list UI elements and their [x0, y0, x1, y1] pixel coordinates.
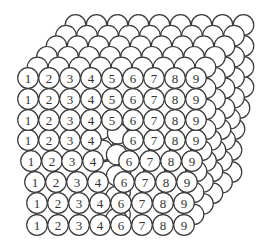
circle-label: 4	[88, 133, 95, 148]
circle-label: 2	[53, 175, 60, 190]
numbered-circle: 4	[90, 193, 111, 214]
circle-label: 3	[67, 113, 74, 128]
circle-label: 6	[130, 113, 137, 128]
circle-label: 6	[126, 154, 133, 169]
numbered-circle: 9	[186, 130, 207, 151]
numbered-circle: 4	[81, 68, 102, 89]
numbered-circle: 7	[132, 215, 153, 236]
numbered-circle: 6	[123, 68, 144, 89]
numbered-circle: 1	[18, 110, 39, 131]
numbered-circle: 1	[21, 151, 42, 172]
numbered-circle: 8	[153, 193, 174, 214]
circle-label: 6	[130, 71, 137, 86]
circle-label: 6	[121, 175, 128, 190]
circle-label: 3	[74, 175, 81, 190]
numbered-circle: 8	[165, 130, 186, 151]
numbered-circle: 9	[186, 110, 207, 131]
numbered-circle: 1	[18, 89, 39, 110]
circle-label: 6	[118, 218, 125, 233]
numbered-circle: 6	[111, 193, 132, 214]
circle-stack-diagram: 1234678912346789123467891234678912346789…	[0, 0, 270, 251]
circle-label: 7	[147, 154, 154, 169]
circle-label: 3	[76, 218, 83, 233]
numbered-circle: 1	[27, 215, 48, 236]
circle-label: 2	[55, 196, 62, 211]
numbered-circle: 8	[165, 89, 186, 110]
numbered-circle: 1	[27, 193, 48, 214]
numbered-circle: 1	[25, 172, 46, 193]
numbered-circle: 5	[102, 89, 123, 110]
circle-label: 2	[55, 218, 62, 233]
front-row-3: 123456789	[18, 110, 207, 131]
numbered-circle: 2	[39, 68, 60, 89]
circle-label: 4	[88, 113, 95, 128]
circle-label: 7	[139, 218, 146, 233]
numbered-circle: 7	[135, 172, 156, 193]
numbered-circle: 3	[69, 193, 90, 214]
circle-label: 8	[160, 218, 167, 233]
numbered-circle: 8	[165, 110, 186, 131]
circle-label: 1	[34, 218, 41, 233]
numbered-circle: 1	[18, 68, 39, 89]
circle-label: 2	[46, 133, 53, 148]
numbered-circle: 4	[81, 89, 102, 110]
circle-label: 3	[67, 133, 74, 148]
circle-label: 4	[97, 218, 104, 233]
numbered-circle: 4	[83, 151, 104, 172]
front-row-1: 123456789	[18, 68, 207, 89]
circle-label: 8	[168, 154, 175, 169]
numbered-circle: 3	[69, 215, 90, 236]
numbered-circle: 2	[42, 151, 63, 172]
numbered-circle: 1	[18, 130, 39, 151]
circle-label: 2	[46, 71, 53, 86]
numbered-circle: 6	[123, 110, 144, 131]
numbered-circle: 7	[144, 68, 165, 89]
numbered-circle: 7	[144, 110, 165, 131]
circle-label: 2	[46, 113, 53, 128]
numbered-circle: 7	[132, 193, 153, 214]
numbered-circle: 5	[102, 110, 123, 131]
numbered-circle: 5	[102, 68, 123, 89]
circle-label: 9	[189, 154, 196, 169]
circle-label: 8	[172, 113, 179, 128]
numbered-circle: 7	[144, 89, 165, 110]
circle-label: 8	[172, 71, 179, 86]
numbered-circle: 4	[81, 110, 102, 131]
numbered-circle: 2	[39, 130, 60, 151]
circle-label: 2	[46, 92, 53, 107]
circle-label: 4	[90, 154, 97, 169]
circle-label: 8	[172, 92, 179, 107]
numbered-circle: 2	[48, 215, 69, 236]
numbered-circle: 6	[123, 130, 144, 151]
numbered-circle: 2	[39, 89, 60, 110]
circle-label: 1	[25, 133, 32, 148]
circle-label: 9	[184, 175, 191, 190]
numbered-circle: 3	[60, 130, 81, 151]
circle-label: 1	[25, 71, 32, 86]
circle-label: 6	[118, 196, 125, 211]
circle-label: 7	[142, 175, 149, 190]
circle-label: 6	[130, 92, 137, 107]
circle-label: 7	[151, 133, 158, 148]
numbered-circle: 3	[67, 172, 88, 193]
numbered-circle: 9	[186, 89, 207, 110]
circle-label: 4	[95, 175, 102, 190]
circle-label: 5	[109, 92, 116, 107]
numbered-circle: 4	[81, 130, 102, 151]
numbered-circle: 9	[174, 193, 195, 214]
circle-label: 5	[109, 113, 116, 128]
numbered-circle: 2	[39, 110, 60, 131]
circle-label: 4	[97, 196, 104, 211]
numbered-circle: 6	[119, 151, 140, 172]
numbered-circle: 2	[46, 172, 67, 193]
circle-label: 9	[193, 113, 200, 128]
circle-label: 8	[163, 175, 170, 190]
numbered-circle: 9	[174, 215, 195, 236]
diagram-canvas: 1234678912346789123467891234678912346789…	[0, 0, 270, 251]
circle-label: 7	[151, 71, 158, 86]
circle-label: 4	[88, 92, 95, 107]
circle-label: 2	[49, 154, 56, 169]
circle-label: 6	[130, 133, 137, 148]
circle-label: 3	[76, 196, 83, 211]
circle-label: 1	[28, 154, 35, 169]
